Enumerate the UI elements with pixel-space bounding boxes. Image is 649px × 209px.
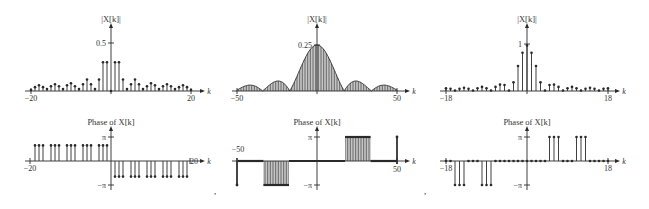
- separator-comma-1: ,: [214, 186, 216, 196]
- plot-left-phase: kPhase of X[k]π−π−2020: [24, 117, 211, 190]
- x-tick-label: 50: [393, 165, 401, 174]
- x-tick-label: −50: [232, 145, 245, 154]
- arrow-right-icon: [615, 159, 620, 163]
- x-tick-label: −18: [440, 164, 453, 173]
- y-tick-label: 0.25: [298, 41, 312, 50]
- x-tick-label: 18: [604, 94, 612, 103]
- y-tick-label: 0.5: [96, 39, 106, 48]
- x-tick-label: 50: [393, 94, 401, 103]
- y-tick-label: −π: [513, 181, 522, 190]
- plot-title: |X[k]|: [101, 14, 121, 24]
- x-tick-label: 18: [604, 164, 612, 173]
- x-tick-label: 20: [187, 94, 195, 103]
- plot-left-magnitude: k|X[k]|0.5−2020: [25, 14, 211, 103]
- y-tick-label: π: [308, 133, 312, 142]
- arrow-right-icon: [405, 89, 410, 93]
- plot-title: Phase of X[k]: [293, 117, 340, 127]
- y-tick-label: 1: [518, 40, 522, 49]
- x-tick-label: −50: [231, 94, 244, 103]
- plot-middle-magnitude: k|X[k]|0.25−5050: [231, 14, 416, 103]
- arrow-right-icon: [615, 89, 620, 93]
- plot-right-phase: kPhase of X[k]π−π−1818: [440, 117, 626, 190]
- plot-title: |X[k]|: [517, 14, 537, 24]
- x-axis-label: k: [207, 87, 211, 96]
- arrow-right-icon: [200, 89, 205, 93]
- separator-comma-2: ,: [424, 186, 426, 196]
- x-axis-label: k: [412, 157, 416, 166]
- x-axis-label: k: [207, 157, 211, 166]
- y-tick-label: −π: [97, 181, 106, 190]
- x-tick-label: 20: [190, 157, 198, 166]
- plot-title: Phase of X[k]: [87, 117, 134, 127]
- x-tick-label: −20: [25, 94, 38, 103]
- plot-middle-phase: kPhase of X[k]π−π−5050: [232, 117, 416, 190]
- arrow-right-icon: [200, 159, 205, 163]
- plot-right-magnitude: k|X[k]|1−1818: [440, 14, 626, 103]
- dft-figure: k|X[k]|0.5−2020kPhase of X[k]π−π−2020k|X…: [0, 0, 649, 209]
- plot-title: Phase of X[k]: [503, 117, 550, 127]
- y-tick-label: π: [102, 133, 106, 142]
- y-tick-label: −π: [303, 181, 312, 190]
- x-tick-label: −18: [440, 94, 453, 103]
- plot-title: |X[k]|: [307, 14, 327, 24]
- y-tick-label: π: [518, 133, 522, 142]
- arrow-right-icon: [405, 159, 410, 163]
- x-axis-label: k: [412, 87, 416, 96]
- x-axis-label: k: [622, 87, 626, 96]
- x-axis-label: k: [622, 157, 626, 166]
- x-tick-label: −20: [24, 164, 37, 173]
